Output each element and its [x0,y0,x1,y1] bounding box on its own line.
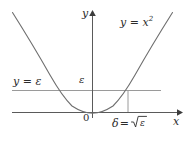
y-axis-arrowhead [89,10,96,16]
curve-equation-label: y = x2 [120,16,153,28]
x-axis-label: x [173,116,179,127]
origin-label: 0 [83,113,89,123]
parabola-plot-svg [0,0,195,142]
curve-equation-text: y = x [120,16,149,29]
delta-equation-label: δ= ε [112,115,147,129]
curve-exponent: 2 [149,15,153,23]
epsilon-line-label: y = ε [13,76,41,87]
epsilon-delta-figure: y x y = x2 y = ε ε 0 δ= ε [0,0,195,142]
radicand-text: ε [140,118,145,128]
sqrt-expression: ε [130,115,147,129]
y-axis-label: y [82,8,88,19]
delta-symbol: δ [112,117,119,130]
radical-sign-icon: ε [131,115,147,128]
epsilon-axis-tick-label: ε [79,75,84,85]
delta-equals-sign: = [119,117,130,130]
